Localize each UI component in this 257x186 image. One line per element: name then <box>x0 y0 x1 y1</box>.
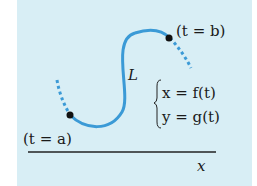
label-t-a: (t = a) <box>23 130 72 148</box>
point-a <box>67 112 74 119</box>
parametric-curve-diagram: (t = b) L x = f(t) y = g(t) (t = a) x <box>0 0 257 186</box>
curve-dotted-start <box>57 80 70 115</box>
equation-y: y = g(t) <box>161 108 220 126</box>
curve-L <box>70 30 170 126</box>
curve-dotted-end <box>170 38 191 68</box>
label-L: L <box>127 66 138 84</box>
point-b <box>166 35 173 42</box>
equation-x: x = f(t) <box>162 84 216 102</box>
label-t-b: (t = b) <box>176 22 225 40</box>
brace-icon <box>154 80 161 128</box>
label-x-axis: x <box>197 157 206 175</box>
